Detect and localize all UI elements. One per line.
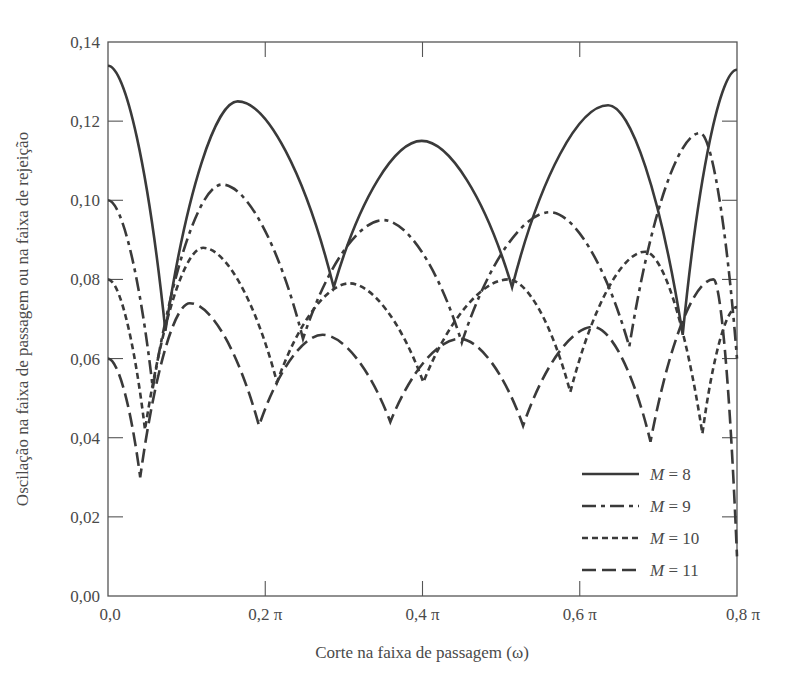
legend-label-m10: M = 10 <box>649 529 699 548</box>
series-line-m9 <box>108 133 737 388</box>
series-line-m8 <box>108 66 737 335</box>
plot-frame <box>108 42 737 596</box>
legend-label-m9: M = 9 <box>649 497 691 516</box>
y-tick-label: 0,06 <box>70 350 100 369</box>
y-tick-label: 0,08 <box>70 270 100 289</box>
y-tick-label: 0,14 <box>70 33 100 52</box>
y-tick-label: 0,10 <box>70 191 100 210</box>
legend: M = 8 M = 9 M = 10 M = 11 <box>582 465 699 580</box>
x-tick-label: 0,4 π <box>405 605 440 624</box>
y-tick-label: 0,04 <box>70 429 100 448</box>
x-tick-label: 0,2 π <box>248 605 283 624</box>
y-axis: 0,000,020,040,060,080,100,120,14 <box>70 33 737 606</box>
x-tick-label: 0,8 π <box>726 605 761 624</box>
y-tick-label: 0,00 <box>70 587 100 606</box>
legend-label-m8: M = 8 <box>649 465 691 484</box>
x-tick-label: 0,6 π <box>563 605 598 624</box>
x-tick-label: 0,0 <box>99 605 120 624</box>
plot-border <box>108 42 737 596</box>
ripple-vs-cutoff-chart: 0,000,020,040,060,080,100,120,14 0,00,2 … <box>0 0 786 690</box>
series-lines <box>108 66 737 557</box>
y-tick-label: 0,12 <box>70 112 100 131</box>
y-axis-title: Oscilação na faixa de passagem ou na fai… <box>13 132 32 506</box>
x-axis-title: Corte na faixa de passagem (ω) <box>315 643 529 662</box>
legend-label-m11: M = 11 <box>649 561 699 580</box>
y-tick-label: 0,02 <box>70 508 100 527</box>
series-line-m11 <box>108 279 737 556</box>
